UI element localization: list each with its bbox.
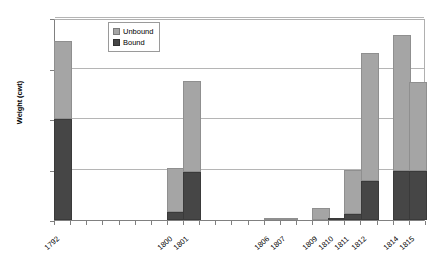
legend-swatch-unbound-icon (113, 28, 120, 35)
x-axis-tick-mark (102, 221, 103, 225)
x-axis-tick-label: 1812 (349, 234, 367, 252)
chart-legend: UnboundBound (108, 22, 160, 52)
x-axis-tick-mark (360, 221, 361, 225)
x-axis-tick-label: 1809 (301, 234, 319, 252)
x-axis-tick-mark (151, 221, 152, 225)
x-axis-tick-mark (119, 221, 120, 225)
x-axis-tick-mark (54, 221, 55, 225)
x-axis-tick-mark (248, 221, 249, 225)
legend-item-label: Bound (123, 38, 145, 47)
x-axis-tick-mark (425, 221, 426, 225)
x-axis-tick-mark (264, 221, 265, 225)
x-axis-tick-label: 1814 (381, 234, 399, 252)
legend-item-label: Unbound (123, 27, 153, 36)
bar-segment-unbound (183, 81, 201, 172)
bar-segment-bound (183, 172, 201, 220)
x-axis-tick-mark (393, 221, 394, 225)
bar-segment-bound (409, 171, 427, 220)
x-axis-tick-label: 1807 (269, 234, 287, 252)
x-axis-tick-mark (199, 221, 200, 225)
gridline (55, 17, 424, 18)
x-axis-tick-label: 1800 (156, 234, 174, 252)
x-axis-tick-label: 1811 (333, 235, 351, 252)
x-axis-tick-mark (183, 221, 184, 225)
x-axis-tick-mark (409, 221, 410, 225)
legend-item: Bound (113, 37, 153, 48)
x-axis-tick-label: 1792 (43, 234, 61, 252)
bar-segment-bound (361, 181, 379, 220)
x-axis-tick-mark (377, 221, 378, 225)
bar-segment-unbound (409, 82, 427, 171)
bar-segment-unbound (280, 218, 298, 220)
x-axis-tick-label: 1801 (172, 234, 190, 252)
y-axis-title: Weight (cwt) (15, 48, 24, 158)
x-axis-tick-mark (86, 221, 87, 225)
stacked-bar-chart: Weight (cwt) 0500100015002000 1792180018… (0, 0, 446, 265)
x-axis-tick-mark (344, 221, 345, 225)
x-axis-tick-mark (280, 221, 281, 225)
x-axis-tick-label: 1810 (317, 234, 335, 252)
legend-item: Unbound (113, 26, 153, 37)
x-axis-tick-mark (328, 221, 329, 225)
x-axis-tick-label: 1815 (398, 234, 416, 252)
bar-segment-unbound (54, 41, 72, 119)
legend-swatch-bound-icon (113, 39, 120, 46)
bar-segment-bound (54, 119, 72, 220)
x-axis-tick-mark (167, 221, 168, 225)
x-axis-tick-mark (312, 221, 313, 225)
bar-segment-unbound (361, 53, 379, 180)
x-axis-tick-label: 1806 (252, 234, 270, 252)
x-axis-tick-mark (70, 221, 71, 225)
x-axis-tick-mark (215, 221, 216, 225)
x-axis-tick-mark (231, 221, 232, 225)
x-axis-tick-mark (296, 221, 297, 225)
x-axis-tick-mark (135, 221, 136, 225)
